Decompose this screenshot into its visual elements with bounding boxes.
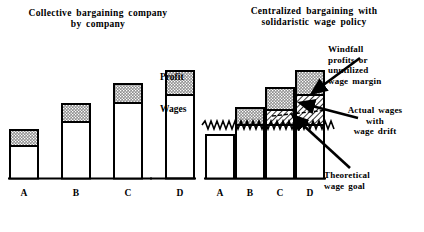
annotation-theoretical-line1: Theoretical	[324, 170, 370, 180]
annotation-windfall-profits: Windfall profits or unutilized wage marg…	[328, 44, 420, 86]
left-axis-label-c: C	[108, 188, 148, 198]
annotation-windfall-line2: profits or	[328, 55, 368, 65]
right-chart-panel: Centralized bargaining with solidaristic…	[200, 0, 424, 232]
annotation-actual-wages-line2: with	[366, 116, 384, 126]
figure-two-panel-bargaining-chart: Collective bargaining company by company	[0, 0, 424, 232]
right-bar-d-windfall	[296, 71, 324, 95]
annotation-actual-wages-line3: wage drift	[354, 126, 397, 136]
left-bar-d	[166, 71, 194, 179]
right-bar-d-actual-wage-drift	[296, 95, 324, 125]
annotation-windfall-line4: wage margin	[328, 76, 381, 86]
legend-wages-label: Wages	[160, 104, 186, 114]
right-bar-b	[236, 108, 264, 179]
left-axis-label-a: A	[4, 188, 44, 198]
annotation-theoretical-wage-goal: Theoretical wage goal	[324, 170, 422, 191]
right-bar-b-theoretical-wage	[236, 125, 264, 179]
right-bar-a-theoretical-wage	[206, 135, 234, 179]
annotation-actual-wages-line1: Actual wages	[348, 105, 403, 115]
annotation-windfall-line1: Windfall	[328, 44, 363, 54]
annotation-actual-wages: Actual wages with wage drift	[328, 105, 422, 137]
right-bar-c	[266, 88, 294, 179]
annotation-windfall-line3: unutilized	[328, 65, 369, 75]
right-axis-label-d: D	[290, 188, 330, 198]
left-chart-panel: Collective bargaining company by company	[0, 0, 200, 232]
left-axis-label-b: B	[56, 188, 96, 198]
left-axis-label-d: D	[160, 188, 200, 198]
annotation-theoretical-line2: wage goal	[324, 181, 365, 191]
legend-profit-label: Profit	[160, 72, 184, 82]
right-bar-a	[206, 135, 234, 179]
right-bar-c-theoretical-wage	[266, 125, 294, 179]
right-bar-c-windfall	[266, 88, 294, 110]
